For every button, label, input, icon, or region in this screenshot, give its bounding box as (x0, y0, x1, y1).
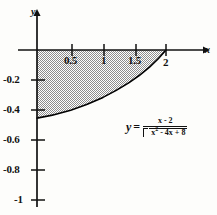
equation-radicand: x2 - 4x + 8 (149, 128, 187, 137)
equation-denominator: x2 - 4x + 8 (143, 127, 187, 137)
x-tick-label-1: 1 (101, 54, 106, 66)
function-graph-figure: y x 0.5 1 1.5 2 -0.2 -0.4 -0.6 -0.8 -1 y… (0, 0, 217, 215)
y-tick-label--0.8: -0.8 (3, 163, 20, 175)
equation-fraction: x - 2 x2 - 4x + 8 (143, 117, 187, 137)
square-root-icon: x2 - 4x + 8 (143, 128, 187, 137)
y-axis-label: y (31, 6, 35, 17)
radicand-post: - 4x + 8 (160, 128, 185, 137)
equation-numerator: x - 2 (143, 117, 187, 126)
x-tick-label-0.5: 0.5 (64, 54, 77, 66)
x-axis-label: x (205, 44, 210, 55)
equation-equals-sign: = (133, 120, 140, 135)
equation-lhs: y (126, 120, 131, 135)
equation-annotation: y = x - 2 x2 - 4x + 8 (126, 117, 187, 137)
x-tick-label-1.5: 1.5 (128, 54, 141, 66)
radicand-exponent: 2 (155, 126, 158, 132)
y-tick-label--0.6: -0.6 (3, 133, 20, 145)
y-tick-label--0.4: -0.4 (3, 103, 20, 115)
y-tick-label--1: -1 (14, 193, 23, 205)
plot-canvas (0, 0, 217, 215)
y-tick-label--0.2: -0.2 (3, 73, 20, 85)
x-tick-label-2: 2 (163, 56, 168, 68)
